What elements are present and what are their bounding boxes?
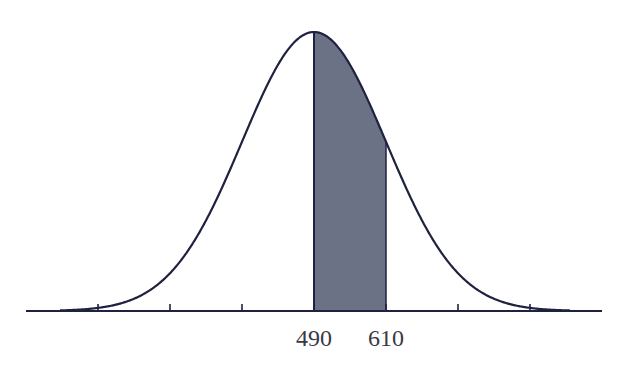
- tick-label-610: 610: [368, 326, 404, 350]
- distribution-plot: [0, 0, 632, 369]
- tick-label-490: 490: [296, 326, 332, 350]
- shaded-area-490-610: [314, 32, 386, 311]
- normal-distribution-diagram: 490 610: [0, 0, 632, 369]
